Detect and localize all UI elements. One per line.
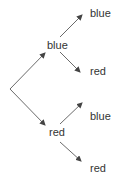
node-red-red: red [90,163,106,174]
node-level1-blue: blue [47,40,68,51]
tree-diagram: blue red blue red blue red [0,0,124,185]
edge-blue-to-red [60,52,80,72]
edge-red-to-red [60,142,81,161]
edge-red-to-blue [60,103,82,124]
node-level1-red: red [49,127,65,138]
node-blue-red: red [90,66,106,77]
edge-root-to-red [10,89,45,125]
node-blue-blue: blue [90,8,111,19]
edge-root-to-blue [10,53,45,89]
node-red-blue: blue [90,111,111,122]
edge-blue-to-blue [60,15,82,37]
tree-edges [0,0,124,185]
